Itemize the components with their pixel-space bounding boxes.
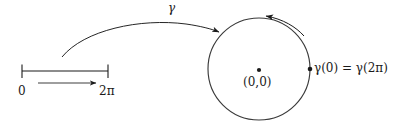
interval-end-label: 2π [99, 85, 115, 97]
interval-start-label: 0 [18, 85, 26, 97]
circle-center-label: (0,0) [243, 76, 271, 88]
math-diagram-figure: γ 0 2π (0,0) γ(0) = γ(2π) [0, 0, 400, 131]
circle-basepoint-label: γ(0) = γ(2π) [314, 62, 388, 74]
circle-basepoint-dot [308, 67, 313, 72]
circle-orientation-arrow [266, 16, 304, 36]
gamma-map-label: γ [168, 2, 175, 14]
gamma-map-arrow-path [62, 22, 219, 57]
circle-center-dot [257, 68, 261, 72]
domain-interval-group [22, 65, 108, 84]
